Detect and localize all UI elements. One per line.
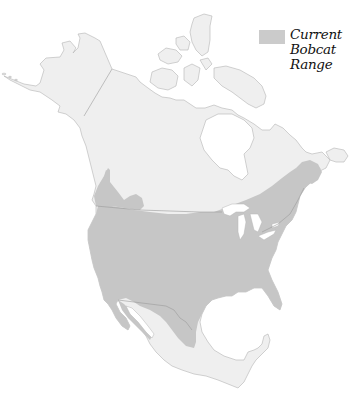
aleutian-island: [15, 79, 18, 80]
legend: Current Bobcat Range: [255, 30, 354, 90]
legend-label: Current Bobcat Range: [290, 27, 342, 72]
aleutian-island: [9, 76, 12, 77]
arctic-island: [184, 64, 200, 86]
legend-line-1: Current: [290, 27, 342, 42]
arctic-island: [158, 48, 182, 64]
arctic-island: [200, 58, 212, 70]
ellesmere-island: [190, 14, 212, 56]
arctic-island: [176, 36, 190, 50]
legend-swatch-bobcat-range: [259, 30, 285, 44]
aleutian-island: [2, 73, 6, 75]
victoria-island: [150, 68, 178, 90]
legend-line-3: Range: [290, 57, 342, 72]
legend-line-2: Bobcat: [290, 42, 342, 57]
